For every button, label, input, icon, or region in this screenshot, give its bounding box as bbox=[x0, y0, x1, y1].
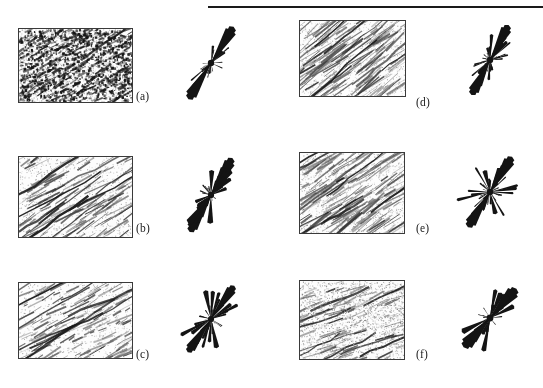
micrograph-canvas-a bbox=[19, 29, 132, 102]
rose-diagram-e bbox=[447, 150, 533, 234]
micrograph-image-a bbox=[18, 28, 133, 103]
panel-caption-f: (f) bbox=[416, 348, 428, 360]
rose-canvas-a bbox=[168, 20, 254, 106]
panel-d bbox=[0, 0, 543, 388]
rose-diagram-c bbox=[168, 278, 254, 360]
panel-c bbox=[0, 0, 543, 388]
micrograph-image-d bbox=[299, 20, 406, 97]
micrograph-image-b bbox=[18, 156, 133, 238]
panel-f bbox=[0, 0, 543, 388]
rose-canvas-d bbox=[447, 20, 533, 100]
panel-caption-b: (b) bbox=[136, 222, 150, 234]
micrograph-image-c bbox=[18, 282, 133, 359]
panel-caption-d: (d) bbox=[416, 96, 430, 108]
panel-e bbox=[0, 0, 543, 388]
rose-diagram-f bbox=[447, 278, 533, 358]
panel-b bbox=[0, 0, 543, 388]
rose-diagram-d bbox=[447, 20, 533, 100]
micrograph-canvas-e bbox=[300, 153, 404, 233]
micrograph-canvas-d bbox=[300, 21, 405, 96]
micrograph-image-e bbox=[299, 152, 405, 234]
rose-diagram-a bbox=[168, 20, 254, 106]
micrograph-image-f bbox=[299, 280, 405, 360]
panel-caption-e: (e) bbox=[416, 222, 429, 234]
micrograph-canvas-c bbox=[19, 283, 132, 358]
rose-canvas-c bbox=[168, 278, 254, 360]
panel-a bbox=[0, 0, 543, 388]
rose-diagram-b bbox=[168, 150, 254, 240]
micrograph-canvas-b bbox=[19, 157, 132, 237]
figure-panel-grid: (a)(b)(c)(d)(e)(f) bbox=[0, 0, 543, 388]
top-rule bbox=[208, 6, 543, 8]
rose-canvas-f bbox=[447, 278, 533, 358]
panel-caption-c: (c) bbox=[136, 348, 149, 360]
rose-canvas-b bbox=[168, 150, 254, 240]
rose-canvas-e bbox=[447, 150, 533, 234]
panel-caption-a: (a) bbox=[136, 90, 149, 102]
micrograph-canvas-f bbox=[300, 281, 404, 359]
